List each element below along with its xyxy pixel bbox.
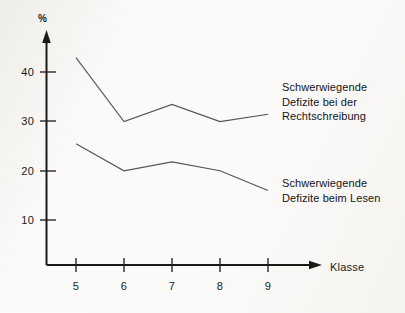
y-axis-arrowhead <box>42 30 51 43</box>
series-annotation-reading-line1: Schwerwiegende <box>282 176 381 191</box>
series-annotation-spelling: Schwerwiegende Defizite bei der Rechtsch… <box>282 80 367 124</box>
y-axis-title: % <box>38 13 47 24</box>
series-annotation-reading-line2: Defizite beim Lesen <box>282 191 381 206</box>
x-tick-label-6: 6 <box>114 280 134 292</box>
x-tick-label-9: 9 <box>258 280 278 292</box>
x-axis-arrowhead <box>309 261 322 269</box>
x-tick-label-8: 8 <box>210 280 230 292</box>
series-line-spelling <box>76 58 268 122</box>
y-tick-label-10: 10 <box>8 214 34 226</box>
series-annotation-reading: Schwerwiegende Defizite beim Lesen <box>282 176 381 205</box>
series-annotation-spelling-line1: Schwerwiegende <box>282 80 367 95</box>
series-line-reading <box>76 144 268 191</box>
y-tick-label-30: 30 <box>8 115 34 127</box>
x-axis-title: Klasse <box>330 261 364 273</box>
y-tick-label-20: 20 <box>8 165 34 177</box>
x-tick-label-5: 5 <box>66 280 86 292</box>
x-tick-label-7: 7 <box>162 280 182 292</box>
y-tick-label-40: 40 <box>8 66 34 78</box>
series-annotation-spelling-line3: Rechtschreibung <box>282 109 367 124</box>
series-annotation-spelling-line2: Defizite bei der <box>282 95 367 110</box>
chart-figure: % 10 20 30 40 5 6 7 8 9 Klasse Schwerwie… <box>0 0 405 313</box>
